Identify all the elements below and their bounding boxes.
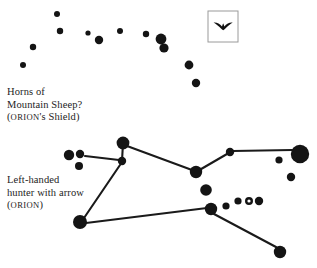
star-dot xyxy=(222,202,229,209)
caption-orion-line3-rest: ) xyxy=(40,199,44,210)
star-chart-figure xyxy=(0,0,317,268)
constellation-line xyxy=(214,214,276,247)
star-dot xyxy=(226,148,234,156)
star-dot xyxy=(185,61,194,70)
constellation-line xyxy=(127,146,192,170)
caption-orion-line3: (ORION) xyxy=(7,199,84,212)
star-dot xyxy=(95,36,103,44)
star-dot xyxy=(73,215,87,229)
star-dot xyxy=(64,150,74,160)
star-dot xyxy=(255,197,263,205)
star-dot xyxy=(234,197,241,204)
star-dot xyxy=(274,246,286,258)
star-dot xyxy=(143,31,149,37)
star-dot xyxy=(75,162,83,170)
star-dot xyxy=(118,157,126,165)
caption-shield-line3: (ORION's Shield) xyxy=(7,111,82,124)
caption-shield-orion-smallcaps: ORION xyxy=(11,112,40,122)
star-dot xyxy=(159,43,168,52)
caption-shield-line2: Mountain Sheep? xyxy=(7,99,82,112)
caption-orion-orion-smallcaps: ORION xyxy=(11,200,40,210)
star-dot xyxy=(287,173,295,181)
constellation-line xyxy=(86,208,207,223)
star-dot-hollow xyxy=(246,198,252,204)
constellation-lines-layer xyxy=(84,143,292,247)
constellation-line xyxy=(85,156,119,160)
star-dot xyxy=(275,156,282,163)
caption-shield-line3-rest: 's Shield) xyxy=(40,111,80,122)
caption-orion: Left-handed hunter with arrow (ORION) xyxy=(7,174,84,212)
bird-glyph-box xyxy=(208,11,238,42)
star-dot xyxy=(192,79,200,87)
caption-orion-line2: hunter with arrow xyxy=(7,187,84,200)
caption-orion-line1: Left-handed xyxy=(7,174,84,187)
star-dot xyxy=(20,62,26,68)
star-dot xyxy=(57,28,63,34)
caption-orions-shield: Horns of Mountain Sheep? (ORION's Shield… xyxy=(7,86,82,124)
star-dot xyxy=(117,137,130,150)
star-dot xyxy=(156,34,167,45)
star-dot xyxy=(30,44,36,50)
star-dot xyxy=(291,145,309,163)
constellation-stars-layer xyxy=(20,11,309,258)
star-dot xyxy=(200,184,212,196)
star-dot xyxy=(205,203,217,215)
constellation-line xyxy=(84,165,120,218)
star-dot xyxy=(54,11,60,17)
star-dot xyxy=(76,150,84,158)
caption-shield-line1: Horns of xyxy=(7,86,82,99)
star-dot xyxy=(85,30,90,35)
star-dot xyxy=(117,28,123,34)
constellation-line xyxy=(233,150,292,151)
star-dot xyxy=(190,166,202,178)
